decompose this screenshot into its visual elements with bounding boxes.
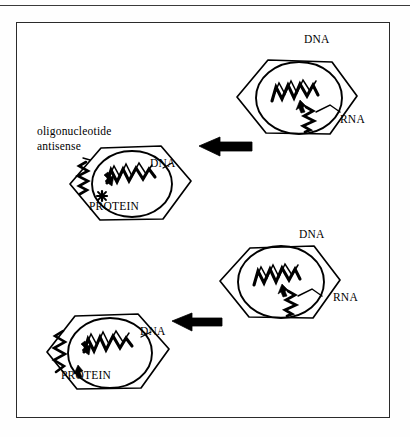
- label-dna-bottom-left: DNA: [140, 325, 166, 337]
- figure-frame-border: [16, 22, 390, 418]
- top-horizontal-rule: [0, 5, 410, 6]
- label-rna-bottom-right: RNA: [333, 291, 358, 303]
- label-rna-top-right: RNA: [340, 113, 365, 125]
- label-dna-bottom-right: DNA: [299, 228, 325, 240]
- label-dna-top-left: DNA: [150, 157, 176, 169]
- label-oligonucleotide-antisense: oligonucleotide antisense: [37, 124, 112, 153]
- figure-root: oligonucleotide antisense DNA RNA DNA PR…: [0, 0, 410, 437]
- label-protein-top-left: PROTEIN: [89, 200, 139, 212]
- label-dna-top-right: DNA: [304, 33, 330, 45]
- label-protein-bottom-left: PROTEIN: [61, 369, 111, 381]
- label-oligonucleotide-line1: oligonucleotide: [37, 124, 112, 139]
- label-oligonucleotide-line2: antisense: [37, 139, 112, 154]
